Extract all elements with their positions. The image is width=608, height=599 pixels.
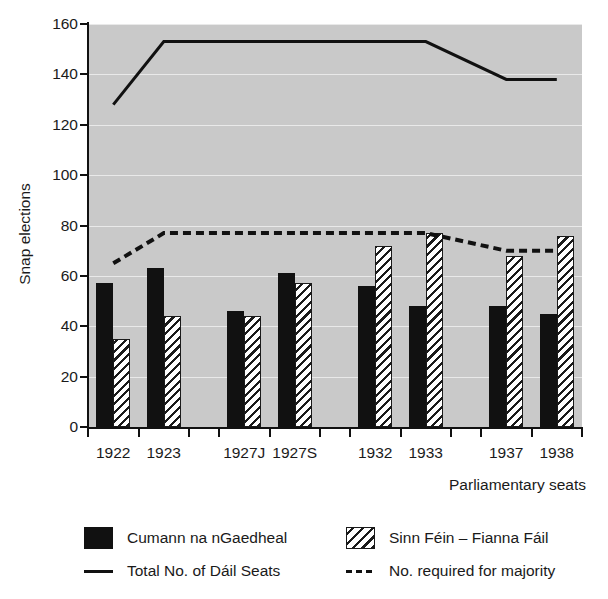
legend-label: Sinn Féin – Fianna Fáil [389,529,548,547]
y-tick [80,426,87,428]
y-tick [80,174,87,176]
y-tick [80,225,87,227]
y-tick-label: 60 [38,268,78,283]
legend-item-total-dail-seats: Total No. of Dáil Seats [84,560,346,582]
legend-row-2: Total No. of Dáil Seats No. required for… [84,554,584,587]
y-axis-title: Snap elections [16,149,34,319]
y-axis-line [87,22,89,429]
y-tick [80,124,87,126]
chart-figure: 020406080100120140160 192219231927J1927S… [0,0,608,599]
x-tick [581,429,583,437]
legend-label: Cumann na nGaedheal [127,529,287,547]
legend-label: No. required for majority [389,562,555,580]
chart-legend: Cumann na nGaedheal Sinn Féin – Fianna F… [84,521,584,587]
x-tick [319,429,321,437]
y-tick-label: 80 [38,218,78,233]
x-axis-title: Parliamentary seats [0,476,586,494]
y-tick [80,325,87,327]
legend-item-cumann-na-ngaedheal: Cumann na nGaedheal [84,527,346,549]
y-tick-label: 140 [38,66,78,81]
x-tick-label: 1933 [396,444,456,461]
x-tick [188,429,190,437]
legend-item-sinn-fein-fianna-fail: Sinn Féin – Fianna Fáil [346,527,584,549]
line-majority-required [113,233,557,263]
y-tick [80,23,87,25]
y-tick [80,376,87,378]
x-tick-label: 1938 [527,444,587,461]
x-tick-label: 1923 [134,444,194,461]
x-tick [400,429,402,437]
x-tick [269,429,271,437]
x-tick-label: 1927S [265,444,325,461]
x-tick [531,429,533,437]
x-axis-line [87,427,583,429]
legend-swatch-solid-bar-icon [84,527,113,549]
y-tick-label: 0 [38,419,78,434]
y-tick [80,275,87,277]
legend-row-1: Cumann na nGaedheal Sinn Féin – Fianna F… [84,521,584,554]
y-tick-label: 160 [38,16,78,31]
line-total-dail-seats [113,42,557,105]
x-tick [349,429,351,437]
y-tick [80,73,87,75]
x-tick [218,429,220,437]
legend-swatch-dashed-line-icon [346,560,375,582]
plot-area [88,24,582,427]
legend-label: Total No. of Dáil Seats [127,562,280,580]
x-tick [450,429,452,437]
legend-item-majority-required: No. required for majority [346,560,584,582]
legend-swatch-hatched-bar-icon [346,527,375,549]
x-tick [138,429,140,437]
legend-swatch-solid-line-icon [84,560,113,582]
x-tick [87,429,89,437]
y-tick-label: 20 [38,369,78,384]
y-tick-label: 40 [38,318,78,333]
x-tick [480,429,482,437]
y-tick-label: 120 [38,117,78,132]
y-tick-label: 100 [38,167,78,182]
lines-layer [88,24,582,427]
